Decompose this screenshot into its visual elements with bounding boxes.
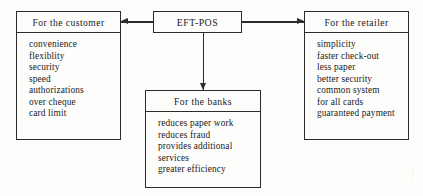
arrow-right-icon (297, 18, 304, 24)
list-item: faster check-out (317, 51, 408, 63)
node-customer-list: convenience flexiblity security speed au… (17, 33, 120, 120)
node-eftpos: EFT-POS (153, 11, 242, 33)
list-item: services (158, 153, 260, 165)
list-item: guaranteed payment (317, 108, 408, 120)
list-item: reduces paper work (158, 118, 260, 130)
list-item: security (29, 62, 120, 74)
list-item: better security (317, 74, 408, 86)
node-customer: For the customer convenience flexiblity … (16, 11, 121, 140)
list-item: convenience (29, 39, 120, 51)
node-banks-list: reduces paper work reduces fraud provide… (146, 112, 260, 176)
node-retailer-list: simplicity faster check-out less paper b… (305, 33, 408, 120)
list-item: reduces fraud (158, 130, 260, 142)
node-retailer: For the retailer simplicity faster check… (304, 11, 409, 140)
arrow-down-icon (200, 83, 206, 90)
node-banks-header: For the banks (146, 91, 260, 112)
list-item: speed (29, 74, 120, 86)
list-item: card limit (29, 108, 120, 120)
eftpos-diagram: EFT-POS For the customer convenience fle… (0, 0, 423, 196)
list-item: provides additional (158, 141, 260, 153)
list-item: greater efficiency (158, 164, 260, 176)
connector-eftpos-to-retailer (242, 21, 304, 22)
scan-artifact: | (412, 170, 417, 194)
list-item: authorizations (29, 85, 120, 97)
node-customer-header: For the customer (17, 12, 120, 33)
arrow-left-icon (121, 18, 128, 24)
connector-eftpos-to-banks (203, 33, 204, 90)
list-item: simplicity (317, 39, 408, 51)
node-banks: For the banks reduces paper work reduces… (145, 90, 261, 188)
list-item: over cheque (29, 97, 120, 109)
list-item: common system (317, 85, 408, 97)
list-item: for all cards (317, 97, 408, 109)
node-eftpos-label: EFT-POS (154, 12, 241, 34)
list-item: flexiblity (29, 51, 120, 63)
list-item: less paper (317, 62, 408, 74)
node-retailer-header: For the retailer (305, 12, 408, 33)
